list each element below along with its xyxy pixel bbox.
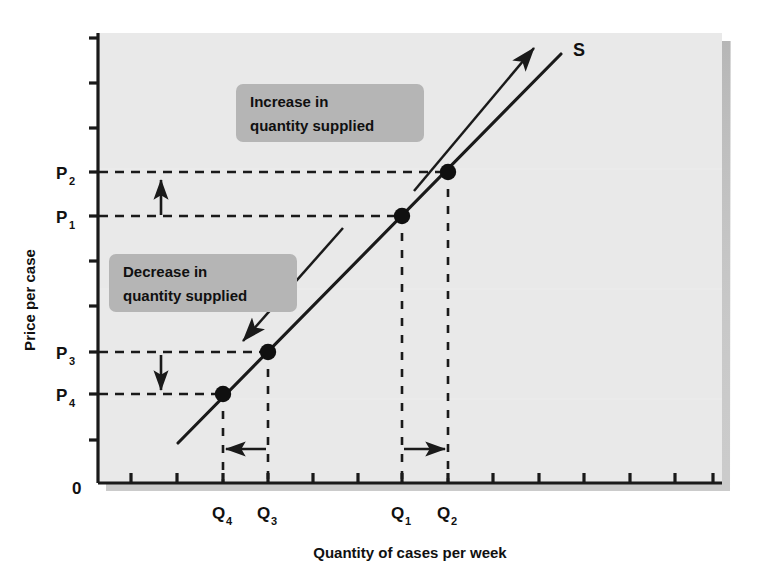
chart-canvas: Increase in quantity supplied Decrease i… [0, 0, 766, 586]
supply-curve-label: S [573, 40, 585, 60]
y-tick-label-p1: P 1 [56, 208, 75, 231]
y-tick-label-p1-sub: 1 [69, 219, 75, 231]
x-tick-label-q1-sub: 1 [405, 515, 411, 527]
x-tick-label-q2-sub: 2 [451, 515, 457, 527]
y-tick-label-p1-base: P [56, 208, 67, 227]
increase-callout-line1: Increase in [250, 93, 328, 110]
x-tick-label-q2-base: Q [437, 504, 450, 523]
decrease-callout[interactable]: Decrease in quantity supplied [109, 254, 297, 312]
x-tick-label-q4-base: Q [212, 504, 225, 523]
supply-curve-figure: Increase in quantity supplied Decrease i… [0, 0, 766, 586]
x-tick-label-q2: Q 2 [437, 504, 457, 527]
x-tick-label-q4: Q 4 [212, 504, 233, 527]
data-point-q1-p1[interactable] [394, 208, 410, 224]
y-axis-title: Price per case [21, 249, 38, 351]
data-point-q2-p2[interactable] [440, 164, 456, 180]
y-tick-label-p4-base: P [56, 386, 67, 405]
increase-callout-line2: quantity supplied [250, 117, 374, 134]
x-tick-label-q1: Q 1 [391, 504, 411, 527]
y-tick-label-p2: P 2 [56, 164, 75, 187]
x-tick-label-q3: Q 3 [257, 504, 277, 527]
data-point-q4-p4[interactable] [215, 386, 231, 402]
origin-label: 0 [72, 479, 81, 498]
y-tick-label-p3-base: P [56, 344, 67, 363]
x-tick-label-q4-sub: 4 [226, 515, 233, 527]
y-tick-label-p2-sub: 2 [69, 175, 75, 187]
y-tick-label-p4: P 4 [56, 386, 76, 409]
x-tick-label-q3-base: Q [257, 504, 270, 523]
y-tick-label-p3: P 3 [56, 344, 75, 367]
x-axis-title: Quantity of cases per week [313, 544, 507, 561]
decrease-callout-line1: Decrease in [123, 263, 207, 280]
x-tick-label-q1-base: Q [391, 504, 404, 523]
decrease-callout-line2: quantity supplied [123, 287, 247, 304]
data-point-q3-p3[interactable] [260, 344, 276, 360]
y-tick-label-p3-sub: 3 [69, 355, 75, 367]
x-tick-label-q3-sub: 3 [271, 515, 277, 527]
increase-callout[interactable]: Increase in quantity supplied [236, 84, 424, 142]
y-tick-label-p4-sub: 4 [69, 397, 76, 409]
y-tick-label-p2-base: P [56, 164, 67, 183]
